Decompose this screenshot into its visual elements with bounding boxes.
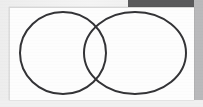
venn-diagram <box>0 0 203 107</box>
venn-circle-right <box>84 12 186 94</box>
venn-circle-left <box>20 12 106 94</box>
scanned-document <box>0 0 203 107</box>
